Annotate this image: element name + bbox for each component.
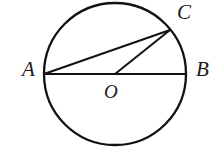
point-label-b: B — [196, 59, 209, 80]
point-label-o: O — [104, 82, 118, 101]
chord-line-AC — [44, 30, 170, 74]
point-label-a: A — [22, 59, 35, 80]
geometry-figure: A B C O — [0, 0, 223, 165]
radius-line-OC — [115, 30, 170, 74]
point-label-c: C — [177, 2, 191, 23]
